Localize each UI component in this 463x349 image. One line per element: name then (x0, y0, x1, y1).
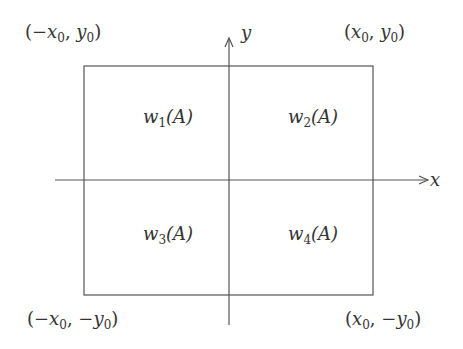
region-label-4: w4(A) (288, 223, 338, 247)
quadrant-diagram: x y (−x0, y0) (x0, y0) (−x0, −y0) (x0, −… (0, 0, 463, 349)
corner-label-top-left: (−x0, y0) (25, 21, 101, 45)
corner-label-top-right: (x0, y0) (344, 21, 405, 45)
corner-label-bottom-left: (−x0, −y0) (27, 308, 118, 332)
region-label-2: w2(A) (288, 106, 338, 130)
region-label-1: w1(A) (143, 106, 193, 130)
y-axis-label: y (240, 22, 252, 43)
region-label-3: w3(A) (143, 223, 193, 247)
corner-label-bottom-right: (x0, −y0) (345, 308, 421, 332)
x-axis-label: x (430, 169, 440, 190)
